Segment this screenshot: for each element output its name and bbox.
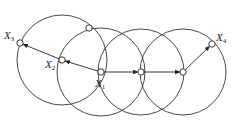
- arrow-right-to-X4: [185, 46, 209, 70]
- label-x4: X4: [216, 32, 226, 45]
- label-x1: X1: [95, 78, 105, 91]
- node-x3: [17, 40, 23, 46]
- node-x4: [209, 41, 215, 47]
- diagram-canvas: X1 X2 X3 X4: [0, 0, 234, 124]
- label-x2: X2: [45, 59, 55, 72]
- node-x2: [59, 57, 65, 63]
- node-x1: [98, 69, 104, 75]
- diagram-svg: [0, 0, 234, 124]
- arrow-X1-to-X2: [65, 61, 98, 71]
- node-top: [86, 25, 92, 31]
- node-right: [180, 69, 186, 75]
- node-mid: [138, 69, 144, 75]
- arrow-X2-to-X3: [23, 44, 59, 59]
- label-x3: X3: [4, 30, 14, 43]
